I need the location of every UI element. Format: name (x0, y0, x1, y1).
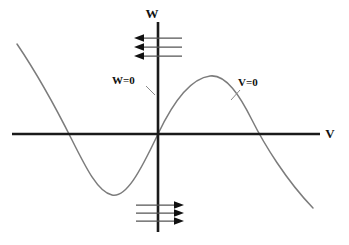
arrowhead-left-icon (134, 43, 144, 51)
arrowhead-right-icon (174, 217, 184, 225)
v-nullcline-curve (17, 44, 313, 208)
lower-flow-arrows (136, 201, 184, 225)
v-axis-label: V (325, 126, 335, 141)
phase-plane-figure: W V W=0 V=0 (0, 0, 349, 245)
lower-flow-arrow-1 (136, 201, 184, 209)
w-nullcline-label: W=0 (112, 74, 135, 86)
w-nullcline-leader (146, 86, 155, 95)
arrowhead-right-icon (174, 209, 184, 217)
w-axis-label: W (146, 6, 159, 21)
arrowhead-right-icon (174, 201, 184, 209)
arrowhead-left-icon (134, 34, 144, 42)
arrowhead-left-icon (134, 52, 144, 60)
phase-plane-canvas: W V W=0 V=0 (0, 0, 349, 245)
upper-flow-arrows (134, 34, 182, 60)
lower-flow-arrow-3 (136, 217, 184, 225)
v-nullcline-label: V=0 (238, 76, 258, 88)
lower-flow-arrow-2 (136, 209, 184, 217)
